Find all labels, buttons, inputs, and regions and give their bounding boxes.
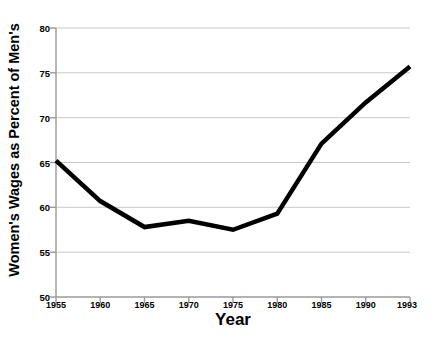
chart-figure: Women's Wages as Percent of Men's 80 75 … [0,0,435,345]
data-series-line [56,67,410,230]
x-axis-title: Year [56,310,410,330]
x-tick-label-1985: 1985 [311,300,331,310]
x-tick-label-1955: 1955 [46,300,66,310]
x-tick-label-1990: 1990 [356,300,376,310]
chart-svg [0,0,435,345]
x-tick-label-1993: 1993 [397,300,417,310]
gridlines-horizontal [56,28,410,252]
x-tick-label-1965: 1965 [134,300,154,310]
x-tick-label-1960: 1960 [90,300,110,310]
x-tick-label-1970: 1970 [179,300,199,310]
x-tick-label-1980: 1980 [267,300,287,310]
x-tick-label-1975: 1975 [223,300,243,310]
plot-area [0,0,435,345]
